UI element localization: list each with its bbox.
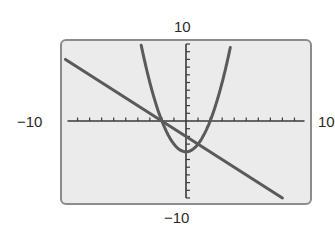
graphing-calculator-screen xyxy=(0,0,332,227)
